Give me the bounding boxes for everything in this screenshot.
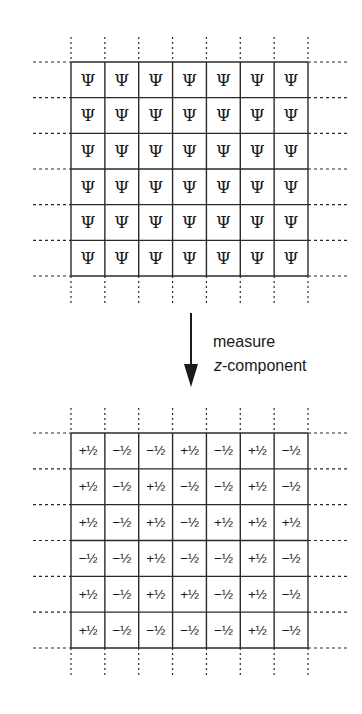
bottom_grid-cell: −½ — [173, 469, 207, 505]
bottom_grid-cell: −½ — [206, 433, 240, 469]
bottom_grid-cell: −½ — [173, 541, 207, 577]
bottom_grid-cell: +½ — [240, 541, 274, 577]
bottom_grid-cell: +½ — [240, 433, 274, 469]
bottom_grid-cell: −½ — [71, 541, 105, 577]
bottom_grid-cell: −½ — [139, 612, 173, 648]
bottom_grid-cell: −½ — [173, 612, 207, 648]
bottom_grid-cell: −½ — [206, 612, 240, 648]
bottom_grid-cell: +½ — [240, 576, 274, 612]
bottom_grid-cell: +½ — [139, 576, 173, 612]
bottom_grid-cell: −½ — [274, 612, 308, 648]
bottom_grid-cell: +½ — [71, 433, 105, 469]
bottom_grid-cell: +½ — [71, 469, 105, 505]
bottom_grid-cell: +½ — [71, 612, 105, 648]
bottom_grid-cell: +½ — [173, 433, 207, 469]
bottom_grid-cell: −½ — [139, 433, 173, 469]
bottom_grid-cell: +½ — [240, 469, 274, 505]
bottom_grid-cell: +½ — [206, 505, 240, 541]
bottom_grid-cell: +½ — [173, 576, 207, 612]
bottom_grid-cell: +½ — [240, 505, 274, 541]
bottom_grid-cell: +½ — [274, 505, 308, 541]
bottom_grid-cell: +½ — [139, 541, 173, 577]
bottom_grid-cell: −½ — [274, 576, 308, 612]
bottom_grid-cell: +½ — [71, 576, 105, 612]
bottom_grid-cell: −½ — [105, 505, 139, 541]
bottom_grid-cell: +½ — [71, 505, 105, 541]
bottom_grid-cell: +½ — [240, 612, 274, 648]
bottom_grid-cell: −½ — [173, 505, 207, 541]
bottom_grid-cell: −½ — [105, 576, 139, 612]
bottom_grid-cell: +½ — [139, 505, 173, 541]
bottom_grid-cell: +½ — [139, 469, 173, 505]
bottom-grid-spins: +½−½−½+½−½+½−½+½−½+½−½−½+½−½+½−½+½−½+½+½… — [0, 0, 362, 714]
bottom_grid-cell: −½ — [274, 433, 308, 469]
bottom_grid-cell: −½ — [206, 541, 240, 577]
bottom_grid-cell: −½ — [274, 469, 308, 505]
bottom_grid-cell: −½ — [105, 469, 139, 505]
bottom_grid-cell: −½ — [206, 576, 240, 612]
bottom_grid-cell: −½ — [105, 612, 139, 648]
bottom_grid-cell: −½ — [105, 541, 139, 577]
bottom_grid-cell: −½ — [206, 469, 240, 505]
bottom_grid-cell: −½ — [274, 541, 308, 577]
bottom_grid-cell: −½ — [105, 433, 139, 469]
